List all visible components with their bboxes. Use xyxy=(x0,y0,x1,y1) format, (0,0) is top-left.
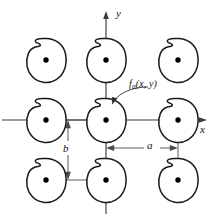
aperture-middle-center xyxy=(87,98,126,142)
y-axis-arrowhead xyxy=(103,11,109,19)
aperture-center-dot xyxy=(175,117,180,122)
aperture-center-dot xyxy=(175,177,180,182)
dimension-a-arrowhead-right xyxy=(170,145,178,151)
dimension-a-label: a xyxy=(147,140,153,151)
figure-canvas xyxy=(0,0,213,217)
aperture-middle-left xyxy=(27,98,66,142)
aperture-center-dot xyxy=(43,117,48,122)
dimension-b-label: b xyxy=(63,143,69,154)
aperture-bottom-center xyxy=(87,158,126,202)
aperture-center-dot xyxy=(43,57,48,62)
aperture-center-dot xyxy=(175,57,180,62)
aperture-top-right xyxy=(159,38,198,82)
aperture-center-dot xyxy=(103,117,108,122)
aperture-center-dot xyxy=(103,57,108,62)
aperture-center-dot xyxy=(43,177,48,182)
y-axis-label: y xyxy=(116,8,121,19)
function-label: fa(x, y) xyxy=(129,79,157,90)
aperture-top-center xyxy=(87,38,126,82)
aperture-top-left xyxy=(27,38,66,82)
aperture-bottom-right xyxy=(159,158,198,202)
function-label-arguments: (x, y) xyxy=(136,78,157,89)
aperture-center-dot xyxy=(103,177,108,182)
dimension-a-arrowhead-left xyxy=(106,145,114,151)
x-axis-label: x xyxy=(200,124,205,135)
figure-container: y x a b fa(x, y) xyxy=(0,0,213,217)
aperture-array xyxy=(27,38,198,202)
aperture-bottom-left xyxy=(27,158,66,202)
x-axis-arrowhead xyxy=(199,117,207,123)
aperture-middle-right xyxy=(159,98,198,142)
